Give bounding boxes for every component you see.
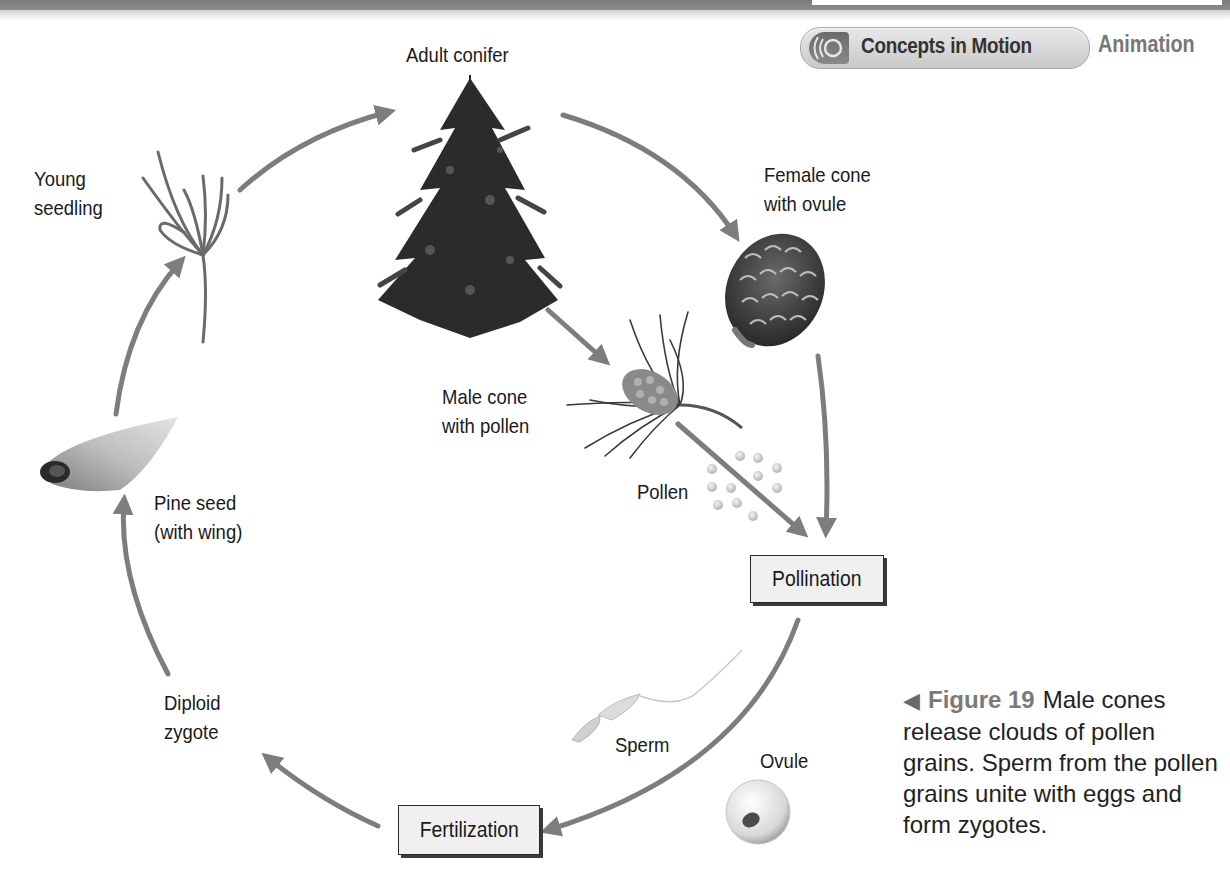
arrow-seedling-to-adult [240,112,388,190]
label-female-cone-line1: Female cone [764,160,871,189]
pine-seed-image [40,417,178,491]
label-young-seedling-line1: Young [34,164,103,193]
label-pine-seed: Pine seed (with wing) [154,488,242,546]
caption-pointer-icon: ◀ [903,688,920,713]
arrow-adult-to-female-cone [563,115,735,235]
label-pollen: Pollen [637,477,688,506]
label-male-cone-line1: Male cone [442,382,529,411]
figure-number: Figure 19 [928,686,1035,713]
label-young-seedling: Young seedling [34,164,103,222]
label-diploid-zygote-line2: zygote [164,717,220,746]
label-sperm: Sperm [615,730,669,759]
figure-caption: ◀Figure 19Male cones release clouds of p… [903,684,1230,840]
label-female-cone: Female cone with ovule [764,160,871,218]
label-pine-seed-line1: Pine seed [154,488,242,517]
arrow-adult-to-male-cone [548,310,604,360]
arrow-fertilization-to-zygote [268,758,378,826]
sperm-image [572,650,742,742]
female-cone-image [707,217,843,363]
label-male-cone-line2: with pollen [442,411,529,440]
arrow-female-cone-to-pollination [818,356,827,530]
label-diploid-zygote-line1: Diploid [164,688,220,717]
label-diploid-zygote: Diploid zygote [164,688,220,746]
arrow-seed-to-seedling [116,262,180,414]
stage-pollination-label: Pollination [772,566,861,592]
adult-conifer-image [378,75,560,338]
label-male-cone: Male cone with pollen [442,382,529,440]
stage-fertilization-label: Fertilization [419,817,518,843]
stage-box-fertilization: Fertilization [398,805,540,855]
label-young-seedling-line2: seedling [34,193,103,222]
stage-box-pollination: Pollination [750,555,884,603]
label-female-cone-line2: with ovule [764,189,871,218]
young-seedling-image [143,152,228,342]
male-cone-image [567,312,742,458]
label-adult-conifer: Adult conifer [406,40,509,69]
label-pine-seed-line2: (with wing) [154,517,242,546]
label-ovule: Ovule [760,746,808,775]
ovule-image [726,780,790,844]
arrow-male-cone-to-pollination [678,424,802,532]
